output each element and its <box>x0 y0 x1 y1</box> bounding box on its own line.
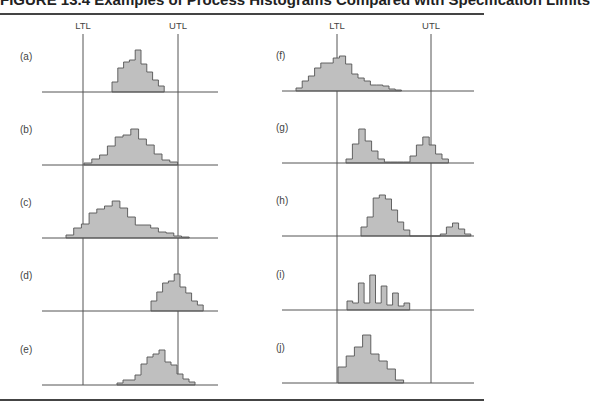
histogram-bars <box>347 275 410 310</box>
histogram-bars <box>84 129 178 165</box>
histogram-bars <box>361 195 471 236</box>
histogram-bars <box>117 350 195 385</box>
histogram-bars <box>112 50 164 92</box>
panel-label: (b) <box>20 124 32 135</box>
panel-label: (e) <box>20 344 32 355</box>
histogram-bars <box>66 201 189 238</box>
ltl-label: LTL <box>75 20 91 31</box>
panel-label: (i) <box>276 269 285 280</box>
panel-label: (f) <box>276 50 285 61</box>
utl-label: UTL <box>422 20 440 31</box>
histogram-bars <box>338 335 404 383</box>
histogram-bars <box>346 129 448 163</box>
panel-label: (g) <box>276 122 288 133</box>
panel-label: (j) <box>276 342 285 353</box>
panel-label: (h) <box>276 195 288 206</box>
utl-label: UTL <box>169 20 187 31</box>
panel-label: (a) <box>20 51 32 62</box>
panel-label: (c) <box>20 197 32 208</box>
ltl-label: LTL <box>329 20 345 31</box>
histogram-bars <box>296 56 401 91</box>
histogram-bars <box>151 274 203 311</box>
panel-label: (d) <box>20 270 32 281</box>
